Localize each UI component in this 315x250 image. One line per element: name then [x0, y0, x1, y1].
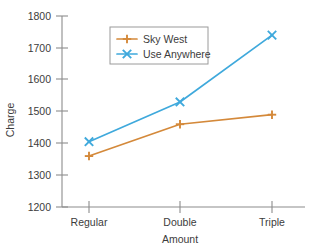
x-axis-title: Amount	[162, 233, 198, 245]
x-tick-label: Triple	[259, 216, 285, 228]
x-tick-label: Double	[163, 216, 196, 228]
y-tick-label: 1700	[28, 42, 52, 54]
legend-item-use-anywhere[interactable]: Use Anywhere	[117, 48, 211, 60]
legend: Sky West Use Anywhere	[110, 27, 211, 64]
y-tick-label: 1600	[28, 73, 52, 85]
y-tick-label: 1400	[28, 137, 52, 149]
legend-item-sky-west[interactable]: Sky West	[117, 33, 187, 45]
y-tick-label: 1200	[28, 201, 52, 213]
chart-canvas: 1800 1700 1600 1500 1400 1300 1200 Charg…	[0, 0, 315, 250]
line-chart: 1800 1700 1600 1500 1400 1300 1200 Charg…	[0, 0, 315, 250]
y-axis-title: Charge	[4, 103, 16, 138]
legend-item-label: Sky West	[143, 33, 187, 45]
y-tick-label: 1800	[28, 10, 52, 22]
y-tick-label: 1500	[28, 105, 52, 117]
x-tick-label: Regular	[71, 216, 108, 228]
y-tick-label: 1300	[28, 169, 52, 181]
legend-item-label: Use Anywhere	[143, 48, 211, 60]
